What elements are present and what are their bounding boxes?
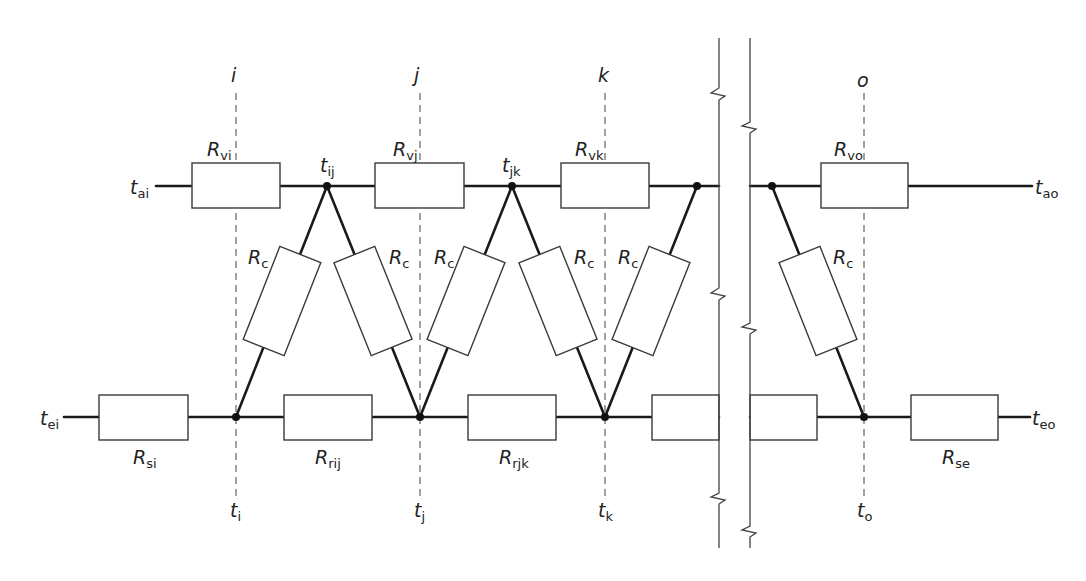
break-lines xyxy=(711,38,756,548)
resistor-partial-left xyxy=(652,395,719,440)
label-rc-2: Rc xyxy=(389,246,409,271)
label-ti: ti xyxy=(230,499,241,524)
resistor-rse xyxy=(911,395,998,440)
node-top-break-right xyxy=(768,182,776,190)
label-rc-4: Rc xyxy=(574,246,594,271)
label-tij: tij xyxy=(320,154,335,179)
convective-resistors xyxy=(243,246,857,355)
node-top-break-left xyxy=(693,182,701,190)
section-label-i: i xyxy=(231,64,237,86)
resistor-rvo xyxy=(821,163,908,208)
break-line-left xyxy=(711,38,725,548)
label-rse: Rse xyxy=(942,446,970,471)
node-tjk xyxy=(508,182,516,190)
break-line-right xyxy=(742,38,756,548)
label-rc-6: Rc xyxy=(833,246,853,271)
node-tij xyxy=(323,182,331,190)
label-rc-3: Rc xyxy=(434,246,454,271)
label-rc-5: Rc xyxy=(618,246,638,271)
resistor-rvi xyxy=(192,163,280,208)
resistor-partial-right xyxy=(750,395,817,440)
resistor-rsi xyxy=(99,395,188,440)
label-to: to xyxy=(857,499,872,524)
label-rrjk: Rrjk xyxy=(499,446,529,471)
label-tei: tei xyxy=(40,407,59,432)
label-rvi: Rvi xyxy=(207,138,232,163)
section-label-k: k xyxy=(598,64,610,86)
label-tjk: tjk xyxy=(502,154,521,179)
thermal-network-diagram: i j k o xyxy=(0,0,1086,581)
node-tk xyxy=(601,413,609,421)
label-rrij: Rrij xyxy=(315,446,341,471)
resistor-rvk xyxy=(561,163,649,208)
label-rvo: Rvo xyxy=(834,138,863,163)
label-rvk: Rvk xyxy=(575,138,604,163)
label-rvj: Rvj xyxy=(393,138,418,163)
resistor-rvj xyxy=(375,163,464,208)
label-rc-1: Rc xyxy=(248,246,268,271)
resistor-rrjk xyxy=(468,395,556,440)
label-tai: tai xyxy=(130,176,149,201)
resistor-rrij xyxy=(284,395,372,440)
node-ti xyxy=(232,413,240,421)
node-to xyxy=(860,413,868,421)
label-rsi: Rsi xyxy=(133,446,157,471)
label-teo: teo xyxy=(1032,407,1055,432)
node-tj xyxy=(416,413,424,421)
label-tao: tao xyxy=(1035,176,1058,201)
label-tj: tj xyxy=(414,499,425,524)
section-label-o: o xyxy=(857,69,869,91)
section-label-j: j xyxy=(411,64,420,86)
label-tk: tk xyxy=(598,499,613,524)
